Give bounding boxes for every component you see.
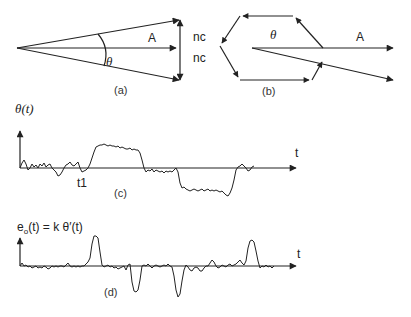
path-arrow-4 bbox=[220, 46, 238, 77]
diagram-figure: A θ nc nc (a) θ A (b) θ(t) t t1 (c) eo(t… bbox=[0, 0, 411, 317]
phase-waveform bbox=[20, 144, 254, 196]
y-axis-label-d: eo(t) = k θ′(t) bbox=[17, 220, 83, 236]
panel-c-phase-waveform: θ(t) t t1 (c) bbox=[15, 101, 299, 199]
vector-label-a: A bbox=[148, 31, 156, 45]
caption-a: (a) bbox=[114, 84, 127, 96]
vector-label-b: A bbox=[356, 30, 364, 44]
panel-d-frequency-waveform: eo(t) = k θ′(t) t (d) bbox=[17, 220, 301, 298]
caption-c: (c) bbox=[114, 187, 127, 199]
path-arrow-6 bbox=[312, 62, 322, 80]
lower-phasor-arrow bbox=[17, 48, 179, 80]
x-axis-label-d: t bbox=[297, 247, 301, 261]
resultant-vector-arrow bbox=[252, 48, 393, 80]
noise-label-bottom: nc bbox=[193, 51, 206, 65]
y-axis-label-c: θ(t) bbox=[15, 101, 34, 116]
noise-label-top: nc bbox=[193, 30, 206, 44]
path-arrow-3 bbox=[222, 16, 240, 43]
caption-b: (b) bbox=[262, 85, 275, 97]
x-axis-label-c: t bbox=[295, 146, 299, 160]
caption-d: (d) bbox=[104, 286, 117, 298]
path-arrow-1 bbox=[296, 18, 323, 48]
angle-arc bbox=[98, 34, 106, 66]
angle-label-b: θ bbox=[270, 27, 277, 42]
t1-marker-label: t1 bbox=[77, 176, 87, 190]
panel-a-phasor-diagram: A θ nc nc (a) bbox=[17, 20, 206, 96]
panel-b-phasor-diagram: θ A (b) bbox=[220, 16, 393, 97]
angle-label-a: θ bbox=[106, 54, 113, 69]
